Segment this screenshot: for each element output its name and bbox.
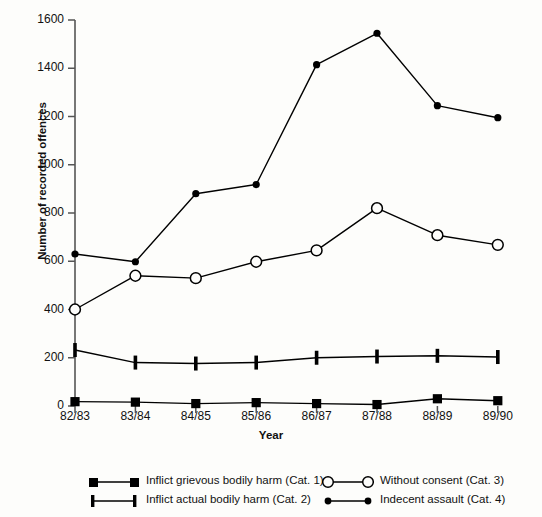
data-point <box>71 250 78 257</box>
legend-label-cat3: Without consent (Cat. 3) <box>380 474 504 486</box>
data-point <box>372 400 381 409</box>
data-point <box>315 351 319 365</box>
data-point <box>194 357 198 371</box>
data-point <box>492 239 503 250</box>
series-2 <box>73 343 499 371</box>
data-point <box>190 273 201 284</box>
legend-label-cat4: Indecent assault (Cat. 4) <box>380 493 505 505</box>
legend-label-cat2: Inflict actual bodily harm (Cat. 2) <box>146 493 311 505</box>
chart-legend: Inflict grievous bodily harm (Cat. 1) In… <box>0 466 542 517</box>
series-line <box>75 33 498 261</box>
data-point <box>436 349 440 363</box>
legend-label-cat1: Inflict grievous bodily harm (Cat. 1) <box>146 474 324 486</box>
legend-swatch-open-circle <box>322 475 374 489</box>
data-point <box>253 181 260 188</box>
data-point <box>130 270 141 281</box>
data-point <box>375 350 379 364</box>
data-point <box>494 114 501 121</box>
data-point <box>432 230 443 241</box>
data-point <box>134 356 138 370</box>
data-point <box>373 30 380 37</box>
data-point <box>70 397 79 406</box>
data-point <box>70 304 81 315</box>
data-point <box>251 256 262 267</box>
legend-swatch-vertical-bar <box>88 494 140 508</box>
data-point <box>496 350 500 364</box>
data-point <box>313 61 320 68</box>
data-point <box>311 245 322 256</box>
data-point <box>254 356 258 370</box>
plot-area <box>0 0 542 470</box>
data-point <box>434 102 441 109</box>
data-point <box>312 399 321 408</box>
data-point <box>191 399 200 408</box>
data-point <box>493 396 502 405</box>
legend-swatch-filled-square <box>88 475 140 489</box>
data-point <box>372 203 383 214</box>
data-point <box>433 394 442 403</box>
data-point <box>192 190 199 197</box>
chart-figure: Number of recorded offences Year 0200400… <box>0 0 542 517</box>
data-point <box>132 258 139 265</box>
data-point <box>73 343 77 357</box>
data-point <box>131 398 140 407</box>
legend-swatch-filled-circle <box>322 494 374 508</box>
data-point <box>252 398 261 407</box>
series-line <box>75 350 498 364</box>
